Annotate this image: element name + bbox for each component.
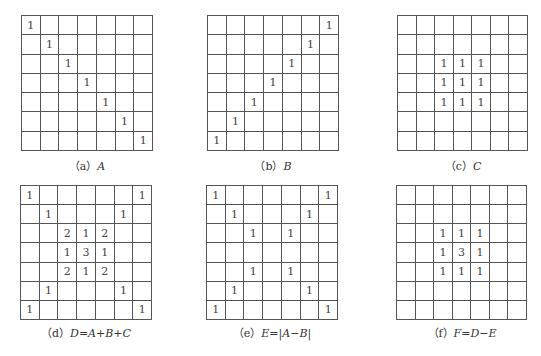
matrix-cell: [472, 16, 491, 35]
matrix-cell: [508, 224, 527, 243]
matrix-cell: [454, 35, 473, 54]
matrix-cell: 1: [434, 263, 453, 282]
matrix-cell: [434, 186, 453, 205]
matrix-cell: [471, 205, 490, 224]
matrix-grid-e: 111111111111: [206, 185, 338, 320]
matrix-grid-f: 111131111: [396, 185, 527, 320]
matrix-cell: [491, 132, 510, 151]
matrix-cell: [416, 243, 435, 262]
matrix-cell: [227, 132, 246, 151]
matrix-cell: 1: [115, 282, 134, 301]
matrix-cell: [454, 132, 473, 151]
matrix-cell: 1: [115, 205, 134, 224]
matrix-cell: 1: [77, 224, 96, 243]
matrix-cell: [264, 35, 283, 54]
matrix-cell: 1: [40, 205, 59, 224]
matrix-cell: 1: [435, 93, 454, 112]
matrix-cell: 2: [58, 263, 77, 282]
matrix-cell: [77, 282, 96, 301]
matrix-cell: [58, 282, 77, 301]
matrix-cell: [509, 93, 528, 112]
matrix-cell: [398, 74, 417, 93]
matrix-cell: 1: [472, 93, 491, 112]
matrix-cell: [207, 263, 226, 282]
matrix-grid-a: 1111111: [21, 15, 153, 151]
matrix-cell: [508, 186, 527, 205]
matrix-cell: 1: [133, 301, 152, 320]
matrix-cell: [397, 263, 416, 282]
matrix-cell: [96, 301, 115, 320]
matrix-cell: [509, 35, 528, 54]
matrix-cell: [509, 55, 528, 74]
matrix-cell: 1: [302, 35, 321, 54]
matrix-cell: 1: [434, 243, 453, 262]
caption-b: （b）B: [207, 157, 339, 173]
caption-label: （e）: [233, 327, 262, 340]
matrix-cell: 1: [77, 263, 96, 282]
matrix-cell: [78, 35, 97, 54]
matrix-cell: [320, 132, 339, 151]
matrix-grid-b: 1111111: [207, 15, 339, 151]
matrix-cell: 1: [453, 263, 472, 282]
matrix-cell: [319, 243, 338, 262]
matrix-cell: [397, 301, 416, 320]
matrix-cell: [319, 224, 338, 243]
matrix-cell: [416, 282, 435, 301]
caption-formula: D=A+B+C: [70, 327, 131, 340]
matrix-cell: 1: [319, 301, 338, 320]
matrix-cell: [490, 282, 509, 301]
matrix-cell: [472, 35, 491, 54]
matrix-cell: 1: [133, 186, 152, 205]
matrix-cell: [21, 263, 40, 282]
matrix-cell: [115, 301, 134, 320]
caption-d: （d）D=A+B+C: [20, 324, 152, 340]
matrix-cell: [22, 74, 41, 93]
matrix-cell: [263, 301, 282, 320]
matrix-cell: [227, 55, 246, 74]
caption-label: （f）: [428, 327, 454, 340]
matrix-cell: [301, 224, 320, 243]
matrix-cell: [59, 16, 78, 35]
matrix-cell: 1: [301, 205, 320, 224]
matrix-cell: [41, 55, 60, 74]
matrix-cell: [283, 16, 302, 35]
matrix-cell: 1: [472, 55, 491, 74]
matrix-cell: [21, 205, 40, 224]
matrix-grid-d: 11112121312121111: [20, 185, 152, 320]
matrix-cell: 1: [434, 224, 453, 243]
matrix-cell: [264, 112, 283, 131]
matrix-cell: [491, 74, 510, 93]
matrix-cell: 1: [435, 55, 454, 74]
matrix-cell: [245, 132, 264, 151]
matrix-cell: [508, 243, 527, 262]
matrix-cell: [491, 93, 510, 112]
matrix-cell: [133, 205, 152, 224]
matrix-cell: [264, 93, 283, 112]
matrix-cell: [134, 55, 153, 74]
matrix-cell: [22, 132, 41, 151]
matrix-cell: 1: [208, 132, 227, 151]
matrix-cell: 1: [22, 16, 41, 35]
matrix-cell: [397, 205, 416, 224]
matrix-cell: [301, 186, 320, 205]
matrix-cell: 1: [244, 224, 263, 243]
matrix-cell: [509, 112, 528, 131]
matrix-cell: [227, 16, 246, 35]
matrix-cell: [435, 35, 454, 54]
matrix-cell: [134, 16, 153, 35]
matrix-cell: 1: [454, 55, 473, 74]
matrix-cell: [78, 112, 97, 131]
matrix-cell: [320, 93, 339, 112]
matrix-cell: [283, 93, 302, 112]
matrix-cell: 1: [283, 55, 302, 74]
matrix-cell: [59, 93, 78, 112]
matrix-cell: [245, 112, 264, 131]
matrix-cell: 1: [471, 263, 490, 282]
matrix-cell: [58, 205, 77, 224]
matrix-cell: [97, 74, 116, 93]
matrix-cell: [134, 93, 153, 112]
matrix-cell: [133, 282, 152, 301]
matrix-cell: [490, 263, 509, 282]
matrix-cell: 2: [58, 224, 77, 243]
matrix-cell: [320, 35, 339, 54]
